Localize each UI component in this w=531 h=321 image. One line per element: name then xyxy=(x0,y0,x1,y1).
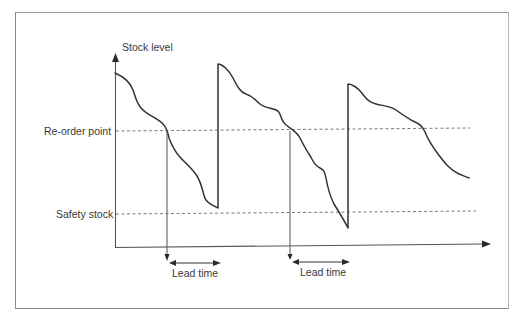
left-arrow-icon xyxy=(292,259,299,265)
lead-time-label-2: Lead time xyxy=(300,266,346,278)
left-arrow-icon xyxy=(169,260,176,266)
down-arrow-icon xyxy=(165,254,170,261)
x-axis-arrow-icon xyxy=(482,241,491,248)
safety-stock-line xyxy=(116,211,476,214)
safety-stock-label: Safety stock xyxy=(56,208,113,220)
y-axis-label: Stock level xyxy=(122,41,173,53)
y-axis-arrow-icon xyxy=(112,53,119,62)
lead-time-marker-1 xyxy=(165,131,222,266)
x-axis xyxy=(115,241,491,248)
right-arrow-icon xyxy=(342,259,350,265)
stock-level-curve xyxy=(115,64,469,228)
stock-level-diagram xyxy=(0,0,531,321)
lead-time-label-1: Lead time xyxy=(172,267,218,279)
down-arrow-icon xyxy=(288,254,293,260)
right-arrow-icon xyxy=(213,260,221,266)
re-order-point-label: Re-order point xyxy=(44,125,111,137)
